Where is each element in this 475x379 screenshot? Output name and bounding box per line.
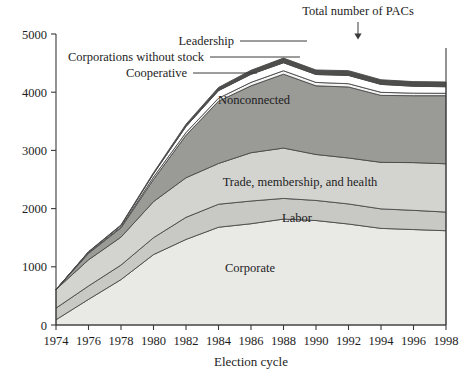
x-tick-label: 1990 [304,334,329,348]
chart-container: 010002000300040005000 197419761978198019… [0,0,475,379]
callout-label-cooperative: Cooperative [126,66,188,80]
y-tick-label: 0 [41,319,47,333]
arrow-head-icon [354,34,361,40]
x-tick-label: 1988 [271,334,296,348]
x-tick-label: 1978 [109,334,134,348]
series-label-corporate: Corporate [225,261,275,275]
x-tick-label: 1982 [174,334,199,348]
x-tick-label: 1974 [44,334,70,348]
x-tick-label: 1992 [336,334,361,348]
x-tick-label: 1998 [434,334,459,348]
callout-label-corporations-without-stock: Corporations without stock [68,50,205,64]
y-tick-label: 5000 [22,28,47,42]
y-tick-label: 3000 [22,144,47,158]
x-axis-title: Election cycle [214,354,288,369]
y-tick-label: 4000 [22,86,47,100]
y-tick-label: 2000 [22,202,47,216]
annotation-label-total-pacs: Total number of PACs [302,4,414,18]
x-tick-group: 1974197619781980198219841986198819901992… [44,325,459,348]
y-tick-label: 1000 [22,260,47,274]
x-tick-label: 1996 [401,334,426,348]
series-label-trade: Trade, membership, and health [223,175,378,189]
x-tick-label: 1986 [239,334,264,348]
axis-title-group: Election cycle [214,354,288,369]
x-tick-label: 1980 [141,334,166,348]
y-tick-group: 010002000300040005000 [22,28,56,333]
x-tick-label: 1984 [206,334,232,348]
callout-label-leadership: Leadership [178,34,234,48]
total-annotation-group: Total number of PACs [302,4,414,40]
series-label-labor: Labor [282,211,313,225]
x-tick-label: 1976 [76,334,101,348]
stacked-area-chart: 010002000300040005000 197419761978198019… [0,0,475,379]
series-label-nonconnected: Nonconnected [218,93,291,107]
x-tick-label: 1994 [369,334,395,348]
